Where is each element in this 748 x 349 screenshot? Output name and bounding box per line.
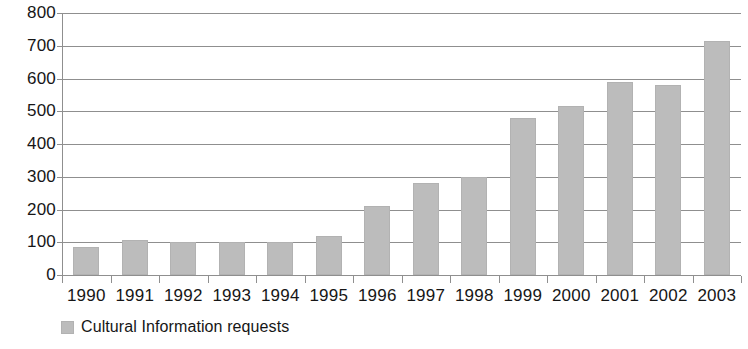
x-axis-tick-label: 1999 [499, 286, 548, 306]
x-axis-tick [402, 276, 403, 283]
x-axis-tick-label: 1995 [305, 286, 354, 306]
x-axis-tick [111, 276, 112, 283]
y-axis-tick-label: 100 [0, 233, 56, 250]
x-axis-tick [644, 276, 645, 283]
y-axis-tick-label: 700 [0, 37, 56, 54]
plot-area [62, 13, 741, 275]
x-axis-tick [693, 276, 694, 283]
x-axis-tick-label: 1991 [111, 286, 160, 306]
legend-label-cultural-information-requests: Cultural Information requests [81, 318, 289, 336]
bar [461, 177, 487, 275]
bar [704, 41, 730, 275]
bar-chart: 8007006005004003002001000 19901991199219… [0, 0, 748, 349]
bar [655, 85, 681, 275]
bar [558, 106, 584, 275]
x-axis-tick-label: 1993 [208, 286, 257, 306]
y-axis-tick-label: 200 [0, 201, 56, 218]
bar [510, 118, 536, 275]
bar [267, 242, 293, 275]
x-axis-tick [499, 276, 500, 283]
legend: Cultural Information requests [61, 318, 289, 336]
y-axis-tick-label: 800 [0, 4, 56, 21]
y-axis-tick-label: 600 [0, 70, 56, 87]
x-axis-tick-label: 2002 [644, 286, 693, 306]
bar [219, 242, 245, 275]
x-axis-tick-label: 2001 [596, 286, 645, 306]
x-axis-tick [353, 276, 354, 283]
x-axis-tick-label: 2000 [547, 286, 596, 306]
bar-series-cultural-information-requests [62, 13, 741, 275]
x-axis-labels: 1990199119921993199419951996199719981999… [62, 286, 741, 310]
x-axis-tick-label: 1998 [450, 286, 499, 306]
bar [170, 242, 196, 275]
y-axis-tick-label: 500 [0, 102, 56, 119]
y-axis-tick-label: 0 [0, 266, 56, 283]
legend-swatch-cultural-information-requests [61, 321, 74, 334]
x-axis-tick [62, 276, 63, 283]
y-axis-labels: 8007006005004003002001000 [0, 0, 56, 349]
x-axis-tick [208, 276, 209, 283]
x-axis-tick [256, 276, 257, 283]
bar [413, 183, 439, 275]
x-axis-tick [305, 276, 306, 283]
x-axis-tick [741, 276, 742, 283]
y-axis-tick-label: 300 [0, 168, 56, 185]
bar [122, 240, 148, 275]
x-axis-tick-label: 1990 [62, 286, 111, 306]
bar [607, 82, 633, 275]
bar [73, 247, 99, 275]
x-axis-tick-label: 2003 [693, 286, 742, 306]
x-axis-ticks [62, 276, 741, 283]
x-axis-tick-label: 1997 [402, 286, 451, 306]
x-axis-tick [159, 276, 160, 283]
x-axis-tick [596, 276, 597, 283]
x-axis-tick-label: 1994 [256, 286, 305, 306]
x-axis-tick-label: 1992 [159, 286, 208, 306]
x-axis-tick [450, 276, 451, 283]
x-axis-tick [547, 276, 548, 283]
y-axis-tick-label: 400 [0, 135, 56, 152]
bar [364, 206, 390, 275]
bar [316, 236, 342, 275]
x-axis-tick-label: 1996 [353, 286, 402, 306]
